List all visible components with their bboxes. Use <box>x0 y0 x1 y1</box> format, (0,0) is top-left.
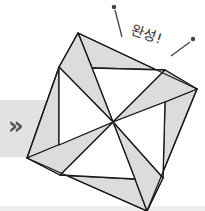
pinwheel-figure <box>0 0 205 211</box>
sparkle-line-right <box>171 42 190 56</box>
sparkle-dot-right <box>191 37 194 40</box>
sparkle-line-left <box>115 10 122 37</box>
sparkle-dot-left <box>112 5 115 8</box>
